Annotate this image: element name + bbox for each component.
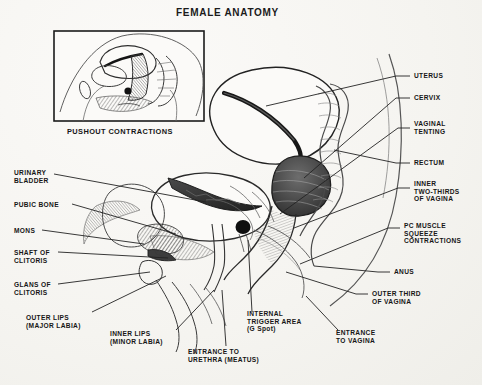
label-inner-two-thirds-of-vagina: INNER TWO-THIRDS OF VAGINA [414, 180, 460, 203]
label-entrance-to-vagina: ENTRANCE TO VAGINA [336, 329, 375, 344]
inset-diagram [54, 31, 204, 121]
label-pc-muscle-squeeze-contractions: PC MUSCLE SQUEEZE CONTRACTIONS [404, 222, 461, 245]
label-anus: ANUS [394, 268, 414, 276]
label-outer-lips: OUTER LIPS (MAJOR LABIA) [26, 314, 81, 329]
label-rectum: RECTUM [414, 159, 444, 167]
label-glans-of-clitoris: GLANS OF CLITORIS [14, 281, 51, 296]
label-inner-lips: INNER LIPS (MINOR LABIA) [110, 330, 163, 345]
page-title: FEMALE ANATOMY [176, 7, 279, 18]
label-vaginal-tenting: VAGINAL TENTING [414, 120, 446, 135]
inset-caption: PUSHOUT CONTRACTIONS [67, 127, 173, 136]
label-cervix: CERVIX [414, 94, 441, 102]
label-mons: MONS [14, 227, 35, 235]
label-uterus: UTERUS [414, 72, 443, 80]
label-pubic-bone: PUBIC BONE [14, 201, 59, 209]
label-entrance-to-urethra: ENTRANCE TO URETHRA (MEATUS) [188, 348, 259, 363]
label-shaft-of-clitoris: SHAFT OF CLITORIS [14, 249, 50, 264]
label-internal-trigger-area: INTERNAL TRIGGER AREA (G Spot) [247, 310, 302, 333]
label-outer-third-of-vagina: OUTER THIRD OF VAGINA [372, 290, 421, 305]
anatomy-illustration-page: FEMALE ANATOMY PUSHOUT CONTRACTIONS URIN… [0, 0, 482, 385]
label-urinary-bladder: URINARY BLADDER [14, 169, 49, 184]
